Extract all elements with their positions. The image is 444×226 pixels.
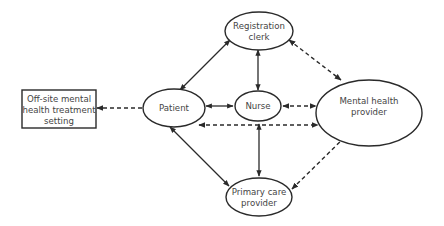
node-primary-care-provider: Primary care provider bbox=[226, 178, 292, 216]
node-patient: Patient bbox=[143, 89, 205, 127]
node-registration-clerk: Registration clerk bbox=[225, 12, 293, 50]
primary-care-ellipse bbox=[226, 178, 292, 216]
registration-ellipse bbox=[225, 12, 293, 50]
node-nurse: Nurse bbox=[235, 91, 281, 121]
node-mental-health-provider: Mental health provider bbox=[316, 80, 422, 146]
node-offsite-treatment-setting: Off-site mental health treatment setting bbox=[22, 90, 96, 128]
offsite-label-line-2: health treatment bbox=[22, 105, 96, 115]
primary-care-label-line-2: provider bbox=[241, 198, 277, 208]
registration-label-line-1: Registration bbox=[233, 21, 285, 31]
edges bbox=[97, 40, 349, 189]
edge-registration-mental-health bbox=[289, 40, 341, 80]
registration-label-line-2: clerk bbox=[249, 32, 270, 42]
offsite-label-line-3: setting bbox=[44, 116, 74, 126]
care-coordination-diagram: Off-site mental health treatment setting… bbox=[0, 0, 444, 226]
mental-health-label-line-2: provider bbox=[351, 107, 387, 117]
edge-patient-registration bbox=[180, 40, 230, 90]
nurse-label: Nurse bbox=[245, 101, 270, 111]
primary-care-label-line-1: Primary care bbox=[232, 187, 287, 197]
offsite-label-line-1: Off-site mental bbox=[27, 94, 91, 104]
edge-patient-primary-care bbox=[170, 127, 229, 186]
patient-label: Patient bbox=[159, 103, 190, 113]
mental-health-label-line-1: Mental health bbox=[339, 96, 398, 106]
